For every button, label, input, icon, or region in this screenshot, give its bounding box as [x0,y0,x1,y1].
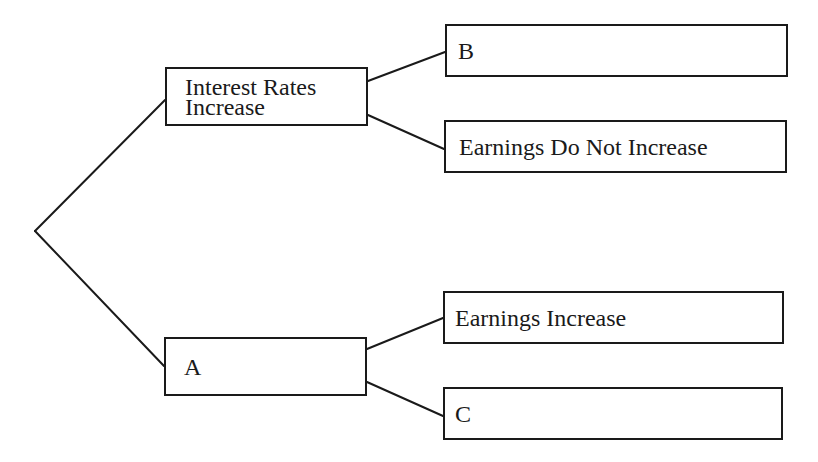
edge-a-c [367,382,443,416]
node-label: B [458,41,474,61]
node-label: Earnings Do Not Increase [459,137,708,157]
node-label: C [455,404,471,424]
node-earnings-increase: Earnings Increase [443,291,784,344]
edge-interest-b [368,52,445,81]
node-a: A [164,337,367,396]
node-interest-rates-increase: Interest Rates Increase [165,67,368,126]
node-label: Earnings Increase [455,308,626,328]
edge-root-a [35,231,164,366]
node-label: A [184,357,201,377]
node-c: C [443,387,783,440]
node-earnings-do-not-increase: Earnings Do Not Increase [444,120,787,173]
node-b: B [445,24,788,77]
edge-a-earnings-yes [367,318,443,349]
node-label-line-2: Increase [185,97,366,117]
edge-interest-earnings-no [368,115,444,149]
edge-root-interest [35,100,165,231]
